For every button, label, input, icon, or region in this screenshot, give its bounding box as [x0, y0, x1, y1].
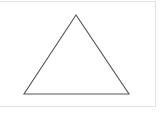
- triangle-figure: [0, 0, 168, 114]
- triangle-shape: [24, 15, 129, 94]
- diagram-canvas: [0, 0, 168, 114]
